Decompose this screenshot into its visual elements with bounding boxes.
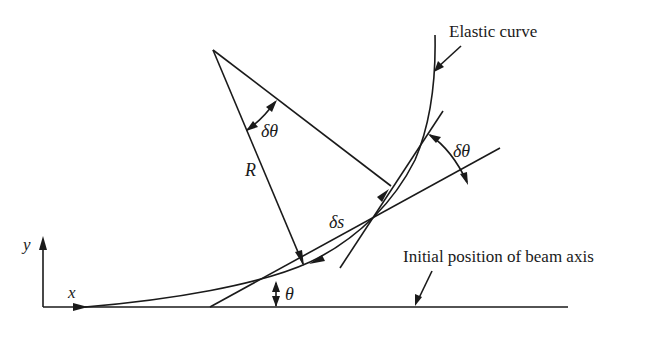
initial-axis-leader-arrow-icon [415, 294, 422, 306]
tangent-delta-theta-label: δθ [453, 141, 470, 161]
radius-label: R [244, 160, 256, 180]
elastic-curve [85, 35, 435, 307]
y-axis-label: y [21, 235, 31, 254]
x-axis-label: x [67, 283, 76, 302]
arc-length-label: δs [329, 212, 344, 232]
y-axis-arrow-icon [39, 236, 47, 250]
theta-arrow-down-icon [272, 296, 280, 307]
radius-line-1 [213, 50, 303, 264]
theta-label: θ [285, 284, 294, 304]
theta-arrow-up-icon [272, 281, 280, 292]
initial-axis-leader-line [418, 271, 432, 300]
radius-line-2 [213, 50, 391, 186]
radius-arrow-icon [295, 250, 304, 266]
initial-axis-label: Initial position of beam axis [403, 247, 594, 266]
tangent-angle-arrow-2-icon [460, 172, 468, 185]
arc-start-arrow-icon [309, 255, 325, 264]
center-delta-theta-label: δθ [261, 121, 278, 141]
beam-deflection-diagram: y x R δθ δs δθ θ Elastic curve Initial p… [0, 0, 645, 337]
tangent-line-theta-plus-dtheta [340, 111, 443, 268]
elastic-curve-label: Elastic curve [449, 22, 537, 41]
